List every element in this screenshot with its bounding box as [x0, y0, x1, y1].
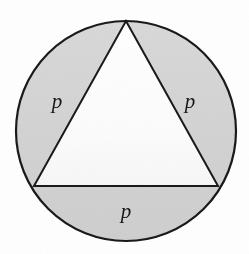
geometry-figure: p p p: [0, 0, 249, 254]
segment-label-right: p: [183, 89, 196, 113]
segment-label-bottom: p: [119, 199, 132, 223]
figure-canvas: p p p: [0, 0, 249, 254]
segment-label-left: p: [50, 89, 63, 113]
